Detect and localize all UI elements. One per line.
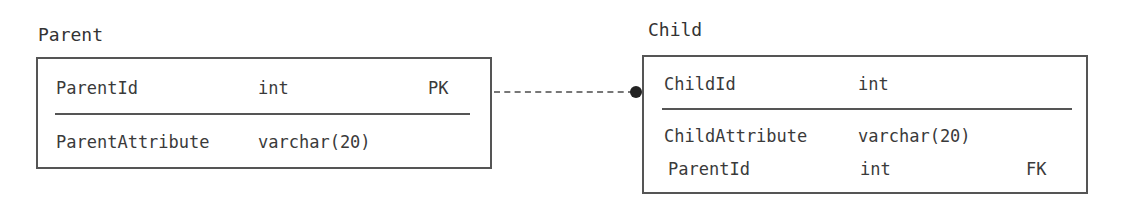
attr-type: int <box>860 159 891 179</box>
pk-badge: PK <box>428 78 448 98</box>
entity-title-child: Child <box>648 19 702 40</box>
relationship-line[interactable] <box>494 91 634 93</box>
attr-type: int <box>858 74 889 94</box>
key-separator <box>55 113 470 115</box>
attr-name: ChildAttribute <box>664 126 807 146</box>
attr-name: ParentAttribute <box>56 132 210 152</box>
attr-type: int <box>258 78 289 98</box>
key-separator <box>662 108 1072 110</box>
attr-name: ParentId <box>56 78 138 98</box>
entity-title-parent: Parent <box>38 24 103 45</box>
attr-name: ChildId <box>664 74 736 94</box>
many-endpoint-dot-icon <box>630 86 642 98</box>
attr-name: ParentId <box>668 159 750 179</box>
fk-badge: FK <box>1026 159 1046 179</box>
attr-type: varchar(20) <box>258 132 371 152</box>
attr-type: varchar(20) <box>858 126 971 146</box>
